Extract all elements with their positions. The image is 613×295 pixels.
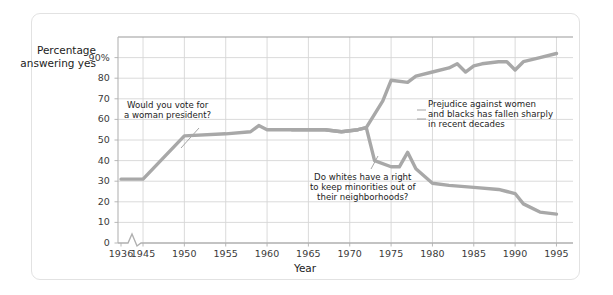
x-tick-label: 1960 bbox=[247, 248, 287, 259]
x-tick-label: 1975 bbox=[371, 248, 411, 259]
y-tick-label: 0 bbox=[78, 237, 110, 248]
y-tick-label: 20 bbox=[78, 196, 110, 207]
annotation-woman-president: Would you vote for a woman president? bbox=[124, 100, 211, 120]
x-tick-label: 1970 bbox=[330, 248, 370, 259]
x-axis-title: Year bbox=[270, 262, 340, 274]
annotation-whites-neighborhoods: Do whites have a right to keep minoritie… bbox=[310, 172, 416, 203]
y-tick-label: 60 bbox=[78, 113, 110, 124]
x-tick-label: 1985 bbox=[454, 248, 494, 259]
x-tick-label: 1990 bbox=[495, 248, 535, 259]
x-tick-label: 1955 bbox=[206, 248, 246, 259]
y-tick-label: 30 bbox=[78, 175, 110, 186]
y-tick-label: 90% bbox=[78, 52, 110, 63]
grid-lines bbox=[118, 37, 573, 243]
annotation-summary: Prejudice against women and blacks has f… bbox=[428, 99, 553, 130]
axis-lines bbox=[115, 37, 574, 247]
x-tick-label: 1950 bbox=[164, 248, 204, 259]
y-tick-label: 50 bbox=[78, 134, 110, 145]
x-tick-label: 1980 bbox=[412, 248, 452, 259]
y-tick-label: 80 bbox=[78, 72, 110, 83]
y-tick-label: 40 bbox=[78, 155, 110, 166]
chart-figure: Percentage answering yes Year 90%8070605… bbox=[0, 0, 613, 295]
annotation-leader-lines bbox=[181, 110, 426, 169]
y-tick-label: 70 bbox=[78, 93, 110, 104]
x-tick-label: 1945 bbox=[123, 248, 163, 259]
x-tick-label: 1965 bbox=[288, 248, 328, 259]
x-tick-label: 1995 bbox=[536, 248, 576, 259]
y-tick-label: 10 bbox=[78, 216, 110, 227]
